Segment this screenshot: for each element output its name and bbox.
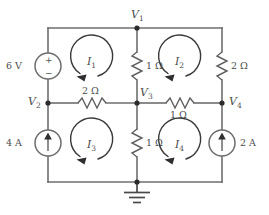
source-label-6v: 6 V (6, 61, 22, 71)
polarity-minus: − (45, 69, 53, 78)
resistor-label-2ohm-mid: 2 Ω (82, 86, 99, 96)
mesh-loop-i4-arrowhead (165, 158, 175, 165)
mesh-label-i2: I2 (175, 56, 184, 70)
mesh-loop-i3-arrowhead (77, 158, 87, 165)
source-label-4a: 4 A (6, 138, 22, 148)
node-dot-ground (134, 179, 139, 184)
resistor-label-2ohm-right: 2 Ω (231, 61, 248, 71)
mesh-loop-i1-arrowhead (77, 75, 87, 82)
node-label-v2: V2 (28, 96, 41, 110)
node-dot-v4 (219, 100, 224, 105)
mesh-label-i4: I4 (175, 139, 184, 153)
resistor-label-1ohm-center-top: 1 Ω (146, 61, 163, 71)
polarity-plus: + (45, 56, 53, 65)
node-dot-v2 (45, 100, 50, 105)
resistor-label-1ohm-center-bottom: 1 Ω (146, 138, 163, 148)
resistor-1ohm-mid (166, 98, 194, 108)
resistor-2ohm-right (217, 52, 227, 80)
mesh-label-i3: I3 (87, 139, 96, 153)
node-label-v4: V4 (229, 96, 242, 110)
resistor-label-1ohm-mid: 1 Ω (170, 110, 187, 120)
node-dot-v3 (134, 100, 139, 105)
mesh-loop-i2-arrowhead (165, 75, 175, 82)
mesh-label-i1: I1 (87, 56, 96, 70)
resistor-1ohm-center-bottom (132, 129, 142, 157)
resistor-2ohm-mid (78, 98, 106, 108)
circuit-diagram: V1 V2 V3 V4 6 V 4 A 2 A + − 1 Ω 2 Ω 2 Ω … (0, 0, 269, 215)
node-label-v1: V1 (131, 9, 144, 23)
source-label-2a: 2 A (240, 138, 256, 148)
node-dot-v1 (134, 25, 139, 30)
resistor-1ohm-center-top (132, 52, 142, 80)
node-label-v3: V3 (140, 87, 153, 101)
